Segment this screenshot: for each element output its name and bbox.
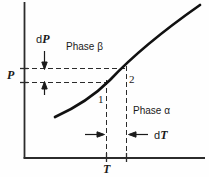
dp-label: dP — [36, 33, 49, 45]
phase-alpha-label: Phase α — [133, 106, 170, 116]
dt-label-var: T — [160, 128, 167, 142]
y-axis-label: P — [7, 69, 14, 81]
dt-label: dT — [154, 129, 167, 141]
point-2-label: 2 — [129, 74, 135, 85]
x-axis-label: T — [103, 163, 110, 175]
phase-diagram-figure: P T dP dT Phase β Phase α 1 2 — [0, 0, 209, 177]
figure-background — [0, 0, 209, 177]
phase-beta-label: Phase β — [66, 42, 103, 52]
dp-label-var: P — [42, 32, 49, 46]
point-1-label: 1 — [98, 94, 104, 105]
diagram-canvas — [0, 0, 209, 177]
